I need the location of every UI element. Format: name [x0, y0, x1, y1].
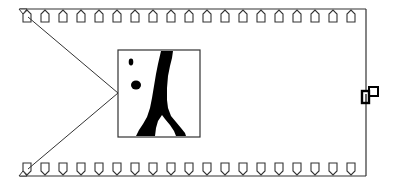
- magnified-inset: [118, 50, 200, 137]
- sprocket-tooth: [257, 10, 265, 22]
- sprocket-tooth: [239, 10, 247, 22]
- sprocket-tooth: [293, 10, 301, 22]
- sprocket-tooth: [293, 163, 301, 175]
- upper-converging-line: [28, 17, 118, 93]
- sprocket-tooth: [113, 163, 121, 175]
- sprocket-tooth: [275, 10, 283, 22]
- sprocket-tooth: [131, 10, 139, 22]
- sprocket-tooth: [329, 10, 337, 22]
- film-strip-diagram: [0, 0, 397, 190]
- sprocket-tooth: [311, 163, 319, 175]
- sprocket-tooth: [131, 163, 139, 175]
- sprocket-tooth: [185, 163, 193, 175]
- sprocket-tooth: [59, 163, 67, 175]
- round-blob: [131, 80, 141, 89]
- top-sprocket-teeth: [19, 9, 355, 22]
- sprocket-tooth: [167, 163, 175, 175]
- sprocket-tooth: [203, 163, 211, 175]
- small-blob: [129, 59, 134, 66]
- lower-converging-line: [28, 93, 118, 169]
- diagram-canvas: Film-strip style strip with sprocket tee…: [0, 0, 397, 190]
- sprocket-tooth: [347, 10, 355, 22]
- sprocket-tooth: [59, 10, 67, 22]
- sprocket-tooth: [311, 10, 319, 22]
- sprocket-tooth: [257, 163, 265, 175]
- sprocket-tooth: [275, 163, 283, 175]
- sprocket-tooth: [239, 163, 247, 175]
- sprocket-tooth: [77, 10, 85, 22]
- sprocket-tooth: [221, 163, 229, 175]
- sprocket-tooth: [41, 163, 49, 175]
- sprocket-tooth: [113, 10, 121, 22]
- sprocket-tooth: [95, 10, 103, 22]
- sprocket-tooth: [77, 163, 85, 175]
- bottom-sprocket-teeth: [19, 163, 355, 176]
- sprocket-tooth: [149, 163, 157, 175]
- sprocket-tooth: [149, 10, 157, 22]
- sprocket-tooth: [203, 10, 211, 22]
- sprocket-tooth: [347, 163, 355, 175]
- sprocket-tooth: [95, 163, 103, 175]
- sprocket-tooth: [221, 10, 229, 22]
- sprocket-tooth: [167, 10, 175, 22]
- tab-connector-icon: [362, 87, 378, 104]
- sprocket-tooth: [185, 10, 193, 22]
- sprocket-tooth: [329, 163, 337, 175]
- sprocket-tooth: [41, 10, 49, 22]
